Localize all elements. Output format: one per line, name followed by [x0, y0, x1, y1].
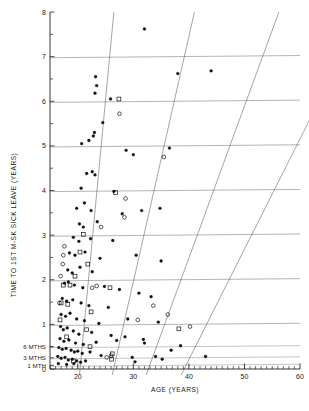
data-point-filled-circle	[89, 237, 92, 240]
data-point-filled-circle	[89, 351, 92, 354]
data-point-filled-circle	[83, 319, 86, 322]
x-axis-title: AGE (YEARS)	[151, 386, 199, 394]
y-tick-label-3: 3	[42, 232, 46, 239]
data-point-filled-circle	[170, 349, 173, 352]
data-point-filled-circle	[75, 318, 78, 321]
data-point-filled-circle	[75, 360, 78, 363]
y-tick-label-1: 1	[42, 321, 46, 328]
data-point-filled-circle	[85, 172, 88, 175]
data-point-filled-circle	[168, 147, 171, 150]
data-point-filled-circle	[82, 343, 85, 346]
data-point-filled-circle	[81, 352, 84, 355]
data-point-filled-circle	[110, 334, 113, 337]
y-axis-title: TIME TO 1ST M-SK SICK LEAVE (YEARS)	[10, 153, 18, 298]
data-point-filled-circle	[76, 350, 79, 353]
data-point-filled-circle	[77, 240, 80, 243]
data-point-filled-circle	[111, 239, 114, 242]
data-point-filled-circle	[204, 355, 207, 358]
data-point-filled-circle	[159, 207, 162, 210]
data-point-filled-circle	[59, 337, 62, 340]
data-point-filled-circle	[124, 335, 127, 338]
data-point-filled-circle	[94, 173, 97, 176]
data-point-filled-circle	[142, 338, 145, 341]
data-point-filled-circle	[115, 339, 118, 342]
data-point-filled-circle	[73, 351, 76, 354]
data-point-filled-circle	[90, 331, 93, 334]
y-tick-label-5: 5	[42, 142, 46, 149]
data-point-filled-circle	[100, 354, 103, 357]
data-point-filled-circle	[150, 295, 153, 298]
data-point-filled-circle	[62, 340, 65, 343]
data-point-filled-circle	[72, 330, 75, 333]
y-special-label: 1 MTH	[27, 362, 46, 369]
data-point-filled-circle	[84, 360, 87, 363]
data-point-filled-circle	[81, 286, 84, 289]
data-point-filled-circle	[118, 288, 121, 291]
data-point-filled-circle	[57, 346, 60, 349]
data-point-filled-circle	[87, 304, 90, 307]
data-point-filled-circle	[75, 207, 78, 210]
data-point-filled-circle	[134, 360, 137, 363]
x-tick-label-50: 50	[241, 373, 249, 380]
data-point-filled-circle	[61, 297, 64, 300]
y-tick-label-6: 6	[42, 98, 46, 105]
y-special-label: 6 MTHS	[23, 343, 46, 350]
y-tick-label-4: 4	[42, 187, 46, 194]
y-special-label: 3 MTHS	[23, 354, 46, 361]
data-point-filled-circle	[126, 318, 129, 321]
data-point-filled-circle	[59, 325, 62, 328]
data-point-filled-circle	[80, 187, 83, 190]
data-point-filled-circle	[94, 75, 97, 78]
y-tick-label-7: 7	[42, 53, 46, 60]
data-point-filled-circle	[72, 236, 75, 239]
data-point-filled-circle	[65, 363, 68, 366]
data-point-filled-circle	[95, 84, 98, 87]
data-point-filled-circle	[99, 257, 102, 260]
data-point-filled-circle	[95, 341, 98, 344]
data-point-filled-circle	[93, 131, 96, 134]
data-point-filled-circle	[140, 209, 143, 212]
data-point-filled-circle	[176, 72, 179, 75]
data-point-filled-circle	[73, 284, 76, 287]
x-tick-label-60: 60	[296, 373, 304, 380]
data-point-filled-circle	[78, 223, 81, 226]
data-point-filled-circle	[62, 328, 65, 331]
data-point-filled-circle	[96, 220, 99, 223]
data-point-filled-circle	[107, 306, 110, 309]
y-tick-label-2: 2	[42, 276, 46, 283]
data-point-filled-circle	[161, 358, 164, 361]
data-point-filled-circle	[56, 355, 59, 358]
data-point-filled-circle	[91, 170, 94, 173]
data-point-filled-circle	[94, 92, 97, 95]
chart-background	[0, 0, 309, 411]
data-point-filled-circle	[84, 251, 87, 254]
data-point-filled-circle	[179, 344, 182, 347]
chart-container: 012345678 2030405060 6 MTHS3 MTHS1 MTH A…	[0, 0, 309, 411]
data-point-filled-circle	[64, 356, 67, 359]
data-point-filled-circle	[132, 153, 135, 156]
data-point-filled-circle	[64, 315, 67, 318]
data-point-filled-circle	[91, 270, 94, 273]
data-point-filled-circle	[160, 260, 163, 263]
data-point-filled-circle	[69, 312, 72, 315]
data-point-filled-circle	[79, 266, 82, 269]
data-point-filled-circle	[80, 302, 83, 305]
data-point-filled-circle	[101, 121, 104, 124]
data-point-filled-circle	[68, 252, 71, 255]
data-point-filled-circle	[157, 321, 160, 324]
data-point-filled-circle	[82, 226, 85, 229]
data-point-filled-circle	[67, 359, 70, 362]
data-point-filled-circle	[97, 322, 100, 325]
data-point-filled-circle	[57, 362, 60, 365]
data-point-filled-circle	[103, 285, 106, 288]
data-point-filled-circle	[143, 28, 146, 31]
data-point-filled-circle	[92, 135, 95, 138]
data-point-filled-circle	[65, 347, 68, 350]
data-point-filled-circle	[66, 326, 69, 329]
data-point-filled-circle	[80, 142, 83, 145]
data-point-filled-circle	[143, 342, 146, 345]
data-point-filled-circle	[90, 209, 93, 212]
data-point-filled-circle	[154, 355, 157, 358]
data-point-filled-circle	[109, 98, 112, 101]
x-tick-label-40: 40	[185, 373, 193, 380]
